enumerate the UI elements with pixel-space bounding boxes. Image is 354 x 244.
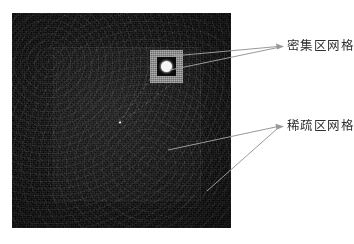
arrowhead-dense xyxy=(276,44,284,50)
image-vignette xyxy=(12,13,231,228)
arrowhead-sparse xyxy=(276,124,285,130)
grid-image-panel xyxy=(12,13,231,228)
dense-region-label: 密集区网格 xyxy=(287,40,354,53)
sparse-region-label: 稀疏区网格 xyxy=(287,120,354,133)
